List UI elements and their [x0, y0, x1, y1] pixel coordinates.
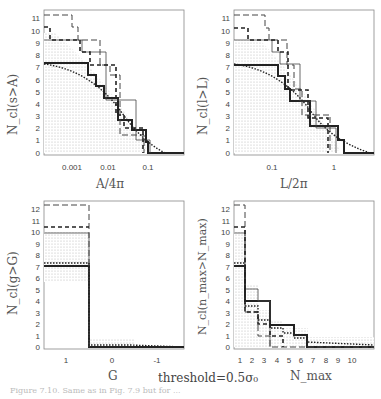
chart-panel-area: 01234567891011 0.0010.010.1 N_cl(s>A) A/… — [0, 0, 190, 200]
svg-text:3: 3 — [226, 112, 231, 121]
chart-area-plot: 01234567891011 0.0010.010.1 — [0, 0, 190, 200]
svg-text:4: 4 — [36, 100, 41, 109]
svg-text:7: 7 — [226, 63, 231, 72]
svg-text:1: 1 — [64, 356, 69, 365]
svg-text:0: 0 — [226, 149, 231, 158]
svg-text:7: 7 — [226, 263, 231, 272]
svg-text:7: 7 — [36, 263, 41, 272]
svg-text:7: 7 — [36, 63, 41, 72]
svg-text:0.001: 0.001 — [62, 163, 83, 172]
svg-text:1: 1 — [36, 136, 41, 145]
svg-text:6: 6 — [36, 76, 41, 85]
threshold-label: threshold=0.5σ₀ — [158, 371, 258, 385]
svg-text:6: 6 — [36, 274, 41, 283]
svg-text:10: 10 — [221, 27, 230, 36]
svg-text:5: 5 — [226, 88, 231, 97]
svg-text:0: 0 — [36, 149, 41, 158]
svg-text:1: 1 — [226, 136, 231, 145]
chart-panel-length: 01234567891011 0.11 N_cl(l>L) L/2π — [190, 0, 381, 200]
svg-text:4: 4 — [226, 100, 231, 109]
x-axis-label: L/2π — [280, 177, 308, 191]
svg-text:9: 9 — [336, 356, 341, 365]
svg-text:10: 10 — [31, 27, 40, 36]
svg-text:2: 2 — [36, 320, 41, 329]
y-axis-label: N_cl(n_max>N_max) — [196, 218, 209, 335]
svg-text:0: 0 — [110, 356, 115, 365]
svg-text:8: 8 — [36, 51, 41, 60]
svg-text:5: 5 — [287, 356, 292, 365]
svg-text:4: 4 — [275, 356, 280, 365]
svg-text:9: 9 — [36, 240, 41, 249]
svg-text:1: 1 — [238, 356, 243, 365]
chart-panel-nmax: 0123456789101112 12345678910 N_cl(n_max>… — [190, 195, 381, 375]
svg-text:10: 10 — [221, 228, 230, 237]
svg-text:-1: -1 — [153, 356, 161, 365]
svg-text:0.01: 0.01 — [100, 163, 116, 172]
svg-text:5: 5 — [226, 286, 231, 295]
svg-text:1: 1 — [226, 332, 231, 341]
x-axis-label: A/4π — [96, 177, 124, 191]
x-axis-label: N_max — [290, 369, 332, 383]
svg-text:4: 4 — [36, 297, 41, 306]
svg-text:8: 8 — [36, 251, 41, 260]
svg-text:11: 11 — [222, 217, 231, 226]
chart-panel-genus: 0123456789101112 10-1 N_cl(g>G) G — [0, 195, 190, 375]
svg-text:11: 11 — [32, 14, 41, 23]
svg-text:0.1: 0.1 — [266, 163, 278, 172]
svg-text:9: 9 — [226, 39, 231, 48]
svg-text:12: 12 — [221, 205, 230, 214]
svg-text:9: 9 — [36, 39, 41, 48]
svg-text:1: 1 — [36, 332, 41, 341]
chart-nmax-plot: 0123456789101112 12345678910 — [190, 195, 381, 375]
svg-text:8: 8 — [226, 51, 231, 60]
svg-text:0: 0 — [226, 343, 231, 352]
svg-text:6: 6 — [226, 76, 231, 85]
svg-text:4: 4 — [226, 297, 231, 306]
svg-text:0.1: 0.1 — [142, 163, 154, 172]
svg-text:10: 10 — [348, 356, 357, 365]
svg-text:2: 2 — [36, 124, 41, 133]
chart-length-plot: 01234567891011 0.11 — [190, 0, 381, 200]
svg-text:8: 8 — [324, 356, 329, 365]
svg-text:10: 10 — [31, 228, 40, 237]
svg-text:11: 11 — [32, 217, 41, 226]
svg-text:5: 5 — [36, 88, 41, 97]
svg-text:2: 2 — [226, 124, 231, 133]
chart-genus-plot: 0123456789101112 10-1 — [0, 195, 190, 375]
svg-text:8: 8 — [226, 251, 231, 260]
svg-text:1: 1 — [332, 163, 337, 172]
svg-text:3: 3 — [262, 356, 267, 365]
y-axis-label: N_cl(s>A) — [6, 74, 20, 135]
x-axis-label: G — [108, 369, 118, 383]
svg-text:3: 3 — [36, 309, 41, 318]
y-axis-label: N_cl(g>G) — [6, 251, 20, 315]
svg-text:7: 7 — [311, 356, 316, 365]
y-axis-label: N_cl(l>L) — [196, 77, 210, 135]
svg-text:2: 2 — [250, 356, 255, 365]
svg-text:0: 0 — [36, 343, 41, 352]
svg-text:11: 11 — [222, 14, 231, 23]
svg-text:9: 9 — [226, 240, 231, 249]
svg-text:2: 2 — [226, 320, 231, 329]
svg-text:12: 12 — [31, 205, 40, 214]
svg-text:3: 3 — [36, 112, 41, 121]
svg-text:6: 6 — [226, 274, 231, 283]
figure-caption: Figure 7.10. Same as in Fig. 7.9 but for… — [10, 386, 181, 395]
svg-text:5: 5 — [36, 286, 41, 295]
svg-text:3: 3 — [226, 309, 231, 318]
svg-text:6: 6 — [299, 356, 304, 365]
